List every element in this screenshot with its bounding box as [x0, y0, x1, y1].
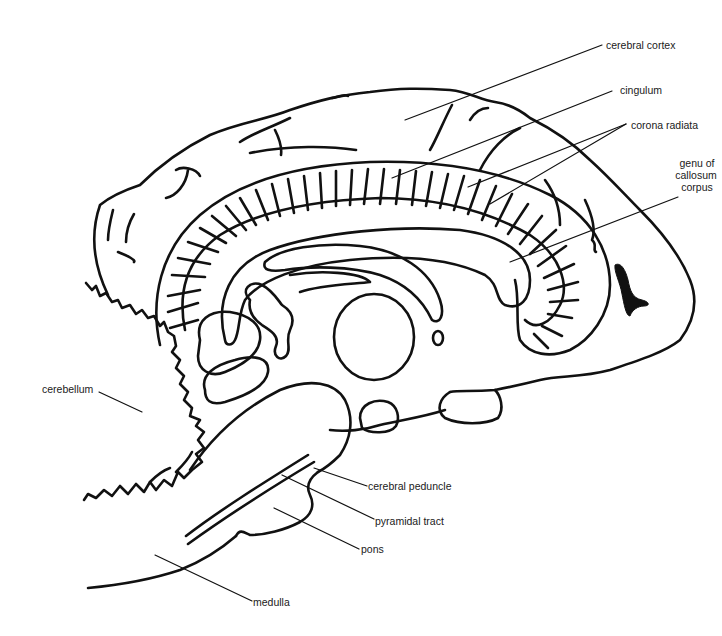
label-corona-radiata: corona radiata: [631, 119, 698, 131]
label-cerebral-cortex: cerebral cortex: [606, 39, 675, 51]
lateral-ventricle: [615, 264, 648, 316]
label-pons: pons: [361, 543, 384, 555]
label-genu-line3: corpus: [672, 181, 722, 193]
colliculi: [198, 312, 260, 374]
pyramidal-tract-line-2: [188, 462, 314, 544]
colliculi-lower: [204, 357, 268, 403]
brain-drawing: [0, 0, 722, 636]
brainstem-dorsal: [190, 383, 350, 472]
label-genu-line2: callosum: [670, 169, 722, 181]
cerebellum-outline: [84, 283, 204, 500]
medulla-outline: [88, 536, 236, 588]
label-cerebral-peduncle: cerebral peduncle: [368, 480, 451, 492]
basal-surface: [330, 410, 445, 431]
cerebrum-outline: [94, 89, 694, 392]
label-cerebellum: cerebellum: [42, 383, 93, 395]
label-pyramidal-tract: pyramidal tract: [375, 515, 444, 527]
ventral-outline: [440, 390, 502, 423]
pyramidal-tract-line-1: [186, 455, 308, 536]
label-cingulum: cingulum: [620, 84, 662, 96]
thalamus: [334, 294, 414, 380]
corpus-callosum: [222, 228, 530, 344]
label-medulla: medulla: [253, 596, 290, 608]
label-genu-line1: genu of: [672, 157, 722, 169]
corona-radiata-inner: [183, 198, 564, 330]
brain-sagittal-diagram: cerebral cortex cingulum corona radiata …: [0, 0, 722, 636]
anterior-commissure: [433, 331, 443, 345]
fornix-inner: [290, 272, 370, 292]
